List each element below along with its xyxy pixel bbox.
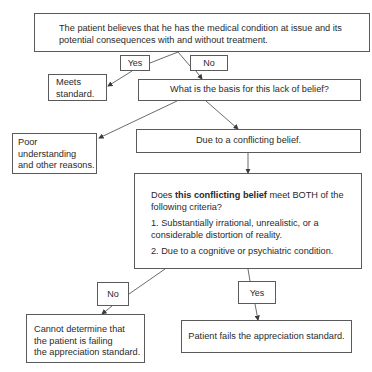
cannot-determine-box: Cannot determine that the patient is fai… xyxy=(26,314,145,363)
criteria-question: Does this conflicting belief meet BOTH o… xyxy=(151,190,361,202)
no-label-top: No xyxy=(190,55,228,71)
fails-standard-box: Patient fails the appreciation standard. xyxy=(181,320,352,353)
meets-standard-box: Meets standard. xyxy=(48,74,107,101)
basis-question-box: What is the basis for this lack of belie… xyxy=(138,79,361,101)
premise-line1: The patient believes that he has the med… xyxy=(59,23,369,35)
no-label-bottom: No xyxy=(97,282,129,306)
criterion-1: 1. Substantially irrational, unrealistic… xyxy=(151,218,361,230)
poor-understanding-box: Poor understanding and other reasons. xyxy=(12,133,97,174)
conflicting-belief-box: Due to a conflicting belief. xyxy=(136,129,361,153)
premise-box: The patient believes that he has the med… xyxy=(34,13,370,52)
premise-line2: potential consequences with and without … xyxy=(59,35,369,47)
yes-label-top: Yes xyxy=(120,55,150,71)
yes-label-bottom: Yes xyxy=(238,281,276,304)
criterion-2: 2. Due to a cognitive or psychiatric con… xyxy=(151,246,361,258)
criteria-box: Does this conflicting belief meet BOTH o… xyxy=(134,173,362,269)
